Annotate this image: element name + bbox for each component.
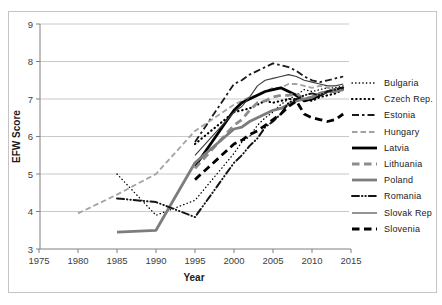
legend-line-sample-estonia xyxy=(351,110,378,120)
legend-line-sample-romania xyxy=(351,191,378,201)
x-tick-label-1980: 1980 xyxy=(67,255,88,266)
legend-item-hungary: Hungary xyxy=(351,124,433,140)
legend-label-poland: Poland xyxy=(384,175,413,185)
x-tick-label-1975: 1975 xyxy=(28,255,49,266)
legend-label-czech-rep: Czech Rep. xyxy=(384,94,433,104)
legend-label-slovenia: Slovenia xyxy=(384,224,420,234)
y-tick-label-7: 7 xyxy=(28,94,33,105)
x-tick-label-2015: 2015 xyxy=(340,255,361,266)
legend-label-romania: Romania xyxy=(384,191,421,201)
legend-line-sample-poland xyxy=(351,175,378,185)
legend-line-sample-slovenia xyxy=(351,224,378,234)
x-tick-label-2005: 2005 xyxy=(262,255,283,266)
efw-line-chart-figure: 3456789197519801985199019952000200520102… xyxy=(0,0,442,305)
series-line-bulgaria xyxy=(117,86,343,215)
legend-label-estonia: Estonia xyxy=(384,110,415,120)
legend-line-sample-czech-rep xyxy=(351,94,378,104)
x-tick-label-2010: 2010 xyxy=(301,255,322,266)
y-tick-label-3: 3 xyxy=(28,244,33,255)
legend-label-bulgaria: Bulgaria xyxy=(384,78,419,88)
y-axis-title: EFW Score xyxy=(11,109,24,165)
legend-item-latvia: Latvia xyxy=(351,140,433,156)
legend-item-romania: Romania xyxy=(351,188,433,204)
x-tick-label-1990: 1990 xyxy=(145,255,166,266)
legend-line-sample-hungary xyxy=(351,127,378,137)
legend-line-sample-lithuania xyxy=(351,159,378,169)
legend-item-slovak-rep: Slovak Rep xyxy=(351,205,433,221)
y-tick-label-5: 5 xyxy=(28,169,33,180)
legend-item-poland: Poland xyxy=(351,172,433,188)
y-tick-label-4: 4 xyxy=(28,206,33,217)
legend-label-hungary: Hungary xyxy=(384,127,419,137)
legend-label-slovak-rep: Slovak Rep xyxy=(384,208,432,218)
x-tick-label-2000: 2000 xyxy=(223,255,244,266)
series-line-lithuania xyxy=(195,88,343,169)
x-axis-title: Year xyxy=(172,272,216,283)
legend-item-lithuania: Lithuania xyxy=(351,156,433,172)
series-line-poland xyxy=(117,90,343,233)
y-tick-label-9: 9 xyxy=(28,19,33,30)
legend-item-bulgaria: Bulgaria xyxy=(351,75,433,91)
legend-item-estonia: Estonia xyxy=(351,107,433,123)
legend-item-slovenia: Slovenia xyxy=(351,221,433,237)
legend-line-sample-slovak-rep xyxy=(351,208,378,218)
legend-line-sample-bulgaria xyxy=(351,78,378,88)
legend-label-lithuania: Lithuania xyxy=(384,159,422,169)
x-tick-label-1995: 1995 xyxy=(184,255,205,266)
y-tick-label-6: 6 xyxy=(28,131,33,142)
y-tick-label-8: 8 xyxy=(28,56,33,67)
x-tick-label-1985: 1985 xyxy=(106,255,127,266)
legend-item-czech-rep: Czech Rep. xyxy=(351,91,433,107)
legend-label-latvia: Latvia xyxy=(384,143,409,153)
legend: BulgariaCzech Rep.EstoniaHungaryLatviaLi… xyxy=(351,75,433,237)
legend-line-sample-latvia xyxy=(351,143,378,153)
